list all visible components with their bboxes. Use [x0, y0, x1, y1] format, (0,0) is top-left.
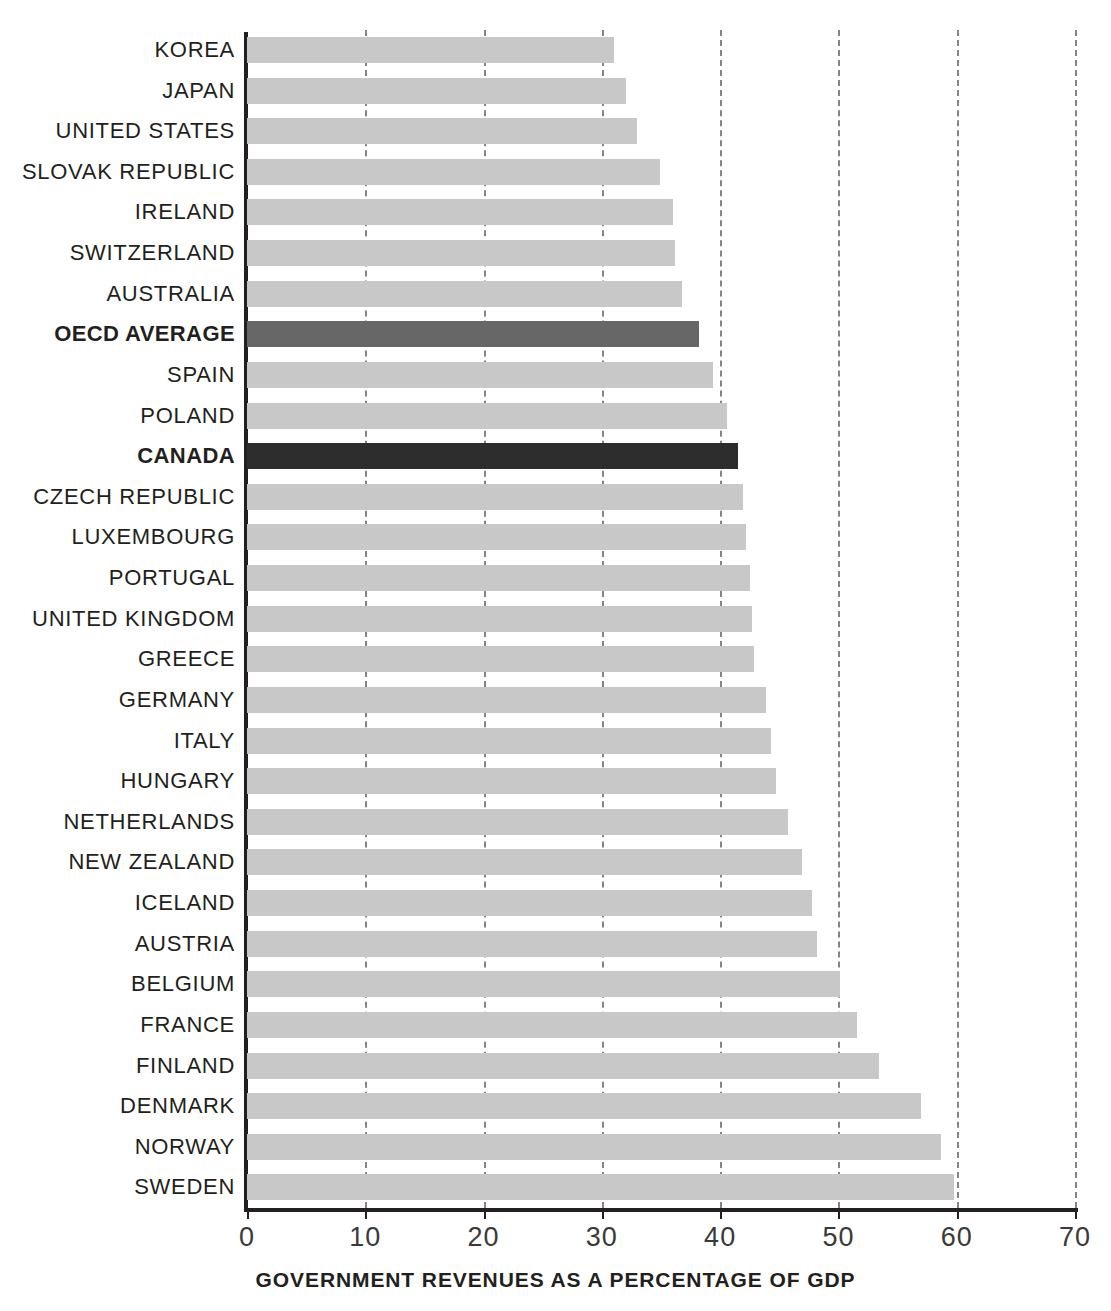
category-label-italy: ITALY [7, 728, 235, 754]
bar-netherlands [247, 809, 788, 835]
chart-row: CANADA [247, 436, 1075, 477]
chart-row: BELGIUM [247, 964, 1075, 1005]
category-label-iceland: ICELAND [7, 890, 235, 916]
category-label-netherlands: NETHERLANDS [7, 809, 235, 835]
x-axis-tick-labels: 010203040506070 [0, 1222, 1111, 1258]
chart-row: ITALY [247, 721, 1075, 762]
gridline-70 [1075, 30, 1077, 1208]
bar-czech-republic [247, 484, 743, 510]
category-label-germany: GERMANY [7, 687, 235, 713]
x-tick-label-30: 30 [586, 1222, 618, 1253]
x-axis-line [244, 1208, 1078, 1212]
category-label-denmark: DENMARK [7, 1093, 235, 1119]
category-label-korea: KOREA [7, 37, 235, 63]
x-tick-label-60: 60 [941, 1222, 973, 1253]
chart-row: AUSTRALIA [247, 274, 1075, 315]
bar-finland [247, 1053, 879, 1079]
bar-switzerland [247, 240, 675, 266]
chart-row: KOREA [247, 30, 1075, 71]
bar-luxembourg [247, 524, 746, 550]
bar-united-kingdom [247, 606, 752, 632]
category-label-united-states: UNITED STATES [7, 118, 235, 144]
category-label-finland: FINLAND [7, 1053, 235, 1079]
category-label-poland: POLAND [7, 403, 235, 429]
bar-greece [247, 646, 754, 672]
chart-row: SWEDEN [247, 1167, 1075, 1208]
bar-united-states [247, 118, 637, 144]
chart-row: DENMARK [247, 1086, 1075, 1127]
x-tick-50 [838, 1208, 840, 1219]
category-label-canada: CANADA [7, 443, 235, 469]
x-tick-label-40: 40 [704, 1222, 736, 1253]
bar-germany [247, 687, 766, 713]
category-label-hungary: HUNGARY [7, 768, 235, 794]
bar-ireland [247, 199, 673, 225]
bar-korea [247, 37, 614, 63]
x-tick-30 [602, 1208, 604, 1219]
chart-row: ICELAND [247, 883, 1075, 924]
bar-sweden [247, 1174, 954, 1200]
category-label-austria: AUSTRIA [7, 931, 235, 957]
category-label-belgium: BELGIUM [7, 971, 235, 997]
chart-row: LUXEMBOURG [247, 517, 1075, 558]
chart-row: GREECE [247, 639, 1075, 680]
chart-row: JAPAN [247, 71, 1075, 112]
bar-new-zealand [247, 849, 802, 875]
chart-row: FINLAND [247, 1046, 1075, 1087]
bar-denmark [247, 1093, 921, 1119]
chart-row: SPAIN [247, 355, 1075, 396]
bar-austria [247, 931, 817, 957]
x-axis-title: GOVERNMENT REVENUES AS A PERCENTAGE OF G… [0, 1268, 1111, 1292]
chart-row: UNITED STATES [247, 111, 1075, 152]
category-label-slovak-republic: SLOVAK REPUBLIC [7, 159, 235, 185]
x-tick-label-0: 0 [239, 1222, 255, 1253]
chart-row: FRANCE [247, 1005, 1075, 1046]
category-label-ireland: IRELAND [7, 199, 235, 225]
chart-row: NETHERLANDS [247, 802, 1075, 843]
bar-oecd-average [247, 321, 699, 347]
bar-japan [247, 78, 626, 104]
bar-chart: KOREAJAPANUNITED STATESSLOVAK REPUBLICIR… [0, 0, 1111, 1311]
chart-row: NORWAY [247, 1127, 1075, 1168]
chart-row: CZECH REPUBLIC [247, 477, 1075, 518]
bar-spain [247, 362, 713, 388]
x-tick-10 [365, 1208, 367, 1219]
bar-canada [247, 443, 738, 469]
chart-row: SWITZERLAND [247, 233, 1075, 274]
category-label-norway: NORWAY [7, 1134, 235, 1160]
chart-row: UNITED KINGDOM [247, 599, 1075, 640]
x-tick-60 [957, 1208, 959, 1219]
bar-poland [247, 403, 727, 429]
x-tick-label-50: 50 [822, 1222, 854, 1253]
category-label-france: FRANCE [7, 1012, 235, 1038]
category-label-switzerland: SWITZERLAND [7, 240, 235, 266]
category-label-oecd-average: OECD AVERAGE [7, 321, 235, 347]
category-label-united-kingdom: UNITED KINGDOM [7, 606, 235, 632]
bar-australia [247, 281, 682, 307]
category-label-japan: JAPAN [7, 78, 235, 104]
bar-portugal [247, 565, 750, 591]
category-label-czech-republic: CZECH REPUBLIC [7, 484, 235, 510]
bar-slovak-republic [247, 159, 660, 185]
chart-row: PORTUGAL [247, 558, 1075, 599]
bar-belgium [247, 971, 840, 997]
bar-italy [247, 728, 771, 754]
chart-row: GERMANY [247, 680, 1075, 721]
category-label-new-zealand: NEW ZEALAND [7, 849, 235, 875]
chart-row: IRELAND [247, 192, 1075, 233]
x-tick-label-70: 70 [1059, 1222, 1091, 1253]
chart-row: NEW ZEALAND [247, 842, 1075, 883]
x-tick-70 [1075, 1208, 1077, 1219]
category-label-australia: AUSTRALIA [7, 281, 235, 307]
x-tick-label-20: 20 [468, 1222, 500, 1253]
bar-iceland [247, 890, 812, 916]
x-tick-40 [720, 1208, 722, 1219]
bar-france [247, 1012, 857, 1038]
chart-row: AUSTRIA [247, 924, 1075, 965]
plot-area: KOREAJAPANUNITED STATESSLOVAK REPUBLICIR… [247, 30, 1075, 1208]
bar-norway [247, 1134, 941, 1160]
category-label-sweden: SWEDEN [7, 1174, 235, 1200]
clipped-header-strip [0, 0, 1111, 12]
bar-hungary [247, 768, 776, 794]
category-label-greece: GREECE [7, 646, 235, 672]
